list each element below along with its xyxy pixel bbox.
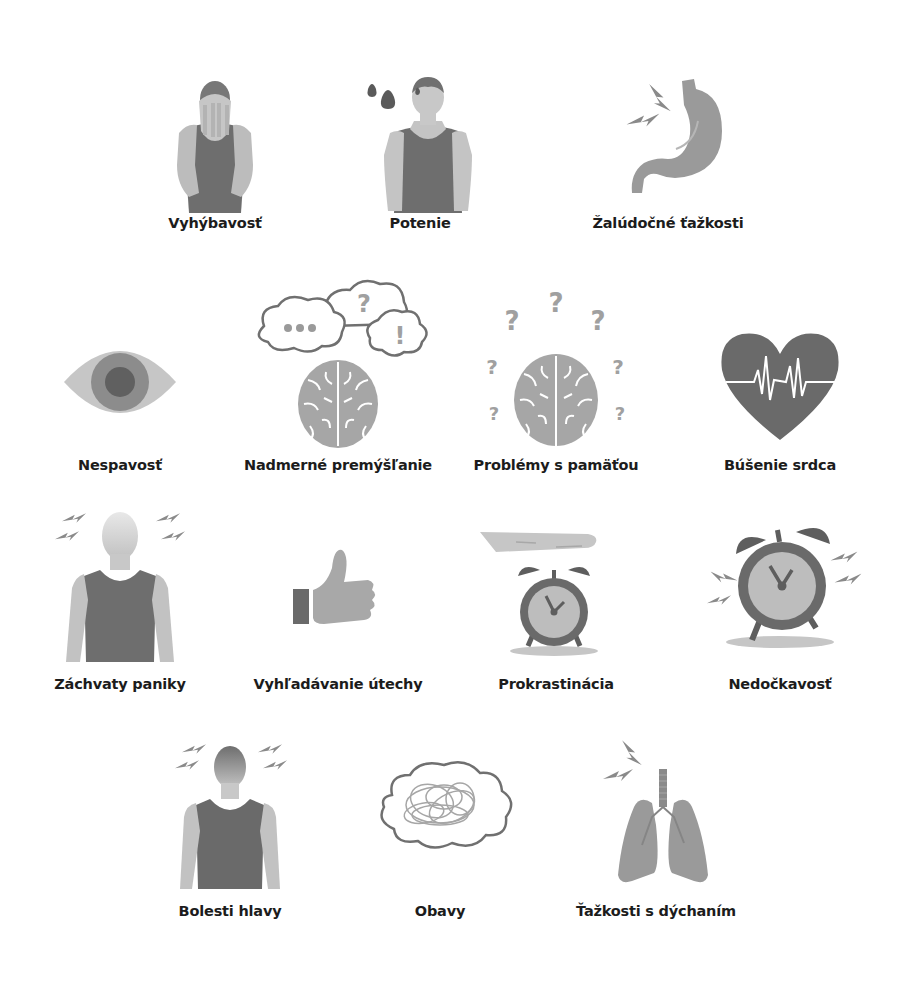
question-mark-icon: ? [504,306,519,336]
symptom-label: Búšenie srdca [680,457,880,473]
sweat-drop-icon [381,90,395,109]
question-mark-icon: ? [612,355,624,379]
lightning-bolt-icon [182,744,206,754]
symptom-headaches: Bolesti hlavy [130,735,330,935]
question-mark-icon: ? [489,403,499,424]
symptom-panic-attacks: Záchvaty paniky [20,500,220,710]
lightning-bolt-icon [831,552,858,563]
lightning-bolt-icon [627,113,660,126]
symptom-label: Bolesti hlavy [130,903,330,919]
thumbs-up-icon [238,500,438,670]
man-covering-face-icon [155,75,275,215]
lightning-bolt-icon [175,760,199,770]
question-mark-icon: ? [590,306,605,336]
lungs-icon [556,735,756,895]
alarm-clock-icon [510,567,598,656]
symptom-label: Vyhľadávanie útechy [238,676,438,692]
lightning-bolt-icon [55,531,79,541]
symptom-impatience: Nedočkavosť [680,500,880,710]
brain-thought-clouds-icon: ? ! [238,270,438,450]
symptom-avoidance: Vyhýbavosť [115,75,315,250]
symptom-label: Obavy [340,903,540,919]
lightning-bolt-icon [647,80,671,116]
question-mark-icon: ? [357,290,371,318]
brain-question-marks-icon: ? ? ? ? ? ? ? [456,270,656,450]
lightning-bolt-icon [161,531,185,541]
symptom-label: Nedočkavosť [680,676,880,692]
symptom-palpitations: Búšenie srdca [680,270,880,480]
exclamation-mark-icon: ! [395,322,406,350]
question-mark-icon: ? [486,355,498,379]
lightning-bolt-icon [62,513,86,523]
eye-icon [50,270,190,450]
question-mark-icon: ? [615,403,625,424]
symptom-stomach: Žalúdočné ťažkosti [568,75,768,250]
sweat-drop-icon [368,84,377,97]
lightning-bolt-icon [263,760,287,770]
lightning-bolt-icon [835,574,862,585]
hand-icon [480,532,596,552]
lightning-bolt-icon [258,744,282,754]
lightning-bolt-icon [620,737,642,769]
symptom-reassurance-seeking: Vyhľadávanie útechy [238,500,438,710]
tangled-thought-cloud-icon [340,735,540,895]
sweating-man-icon [350,75,490,215]
symptom-label: Vyhýbavosť [115,215,315,231]
symptom-procrastination: Prokrastinácia [456,500,656,710]
symptom-insomnia: Nespavosť [20,270,220,480]
symptom-overthinking: ? ! Nadmerné premýšľanie [238,270,438,480]
panic-man-icon [40,500,200,670]
ringing-alarm-clock-icon [680,500,880,670]
symptom-label: Prokrastinácia [456,676,656,692]
stomach-icon [598,75,738,205]
symptom-label: Potenie [320,215,520,231]
lightning-bolt-icon [711,572,738,583]
headache-man-icon [130,735,330,895]
symptom-label: Žalúdočné ťažkosti [568,215,768,231]
question-mark-icon: ? [548,288,563,318]
symptom-label: Nespavosť [20,457,220,473]
symptom-label: Ťažkosti s dýchaním [556,903,756,919]
lightning-bolt-icon [707,595,731,605]
symptom-breathing-difficulties: Ťažkosti s dýchaním [556,735,756,935]
brain-icon [514,354,598,446]
symptom-label: Nadmerné premýšľanie [238,457,438,473]
symptom-memory-problems: ? ? ? ? ? ? ? Problémy s pamäťou [456,270,656,480]
lightning-bolt-icon [603,769,633,781]
lightning-bolt-icon [156,513,180,523]
brain-icon [298,360,378,448]
symptom-label: Záchvaty paniky [20,676,220,692]
symptom-worries: Obavy [340,735,540,935]
symptom-sweating: Potenie [320,75,520,250]
hand-over-alarm-clock-icon [456,500,656,670]
heart-pulse-icon [680,270,880,450]
symptom-label: Problémy s pamäťou [456,457,656,473]
